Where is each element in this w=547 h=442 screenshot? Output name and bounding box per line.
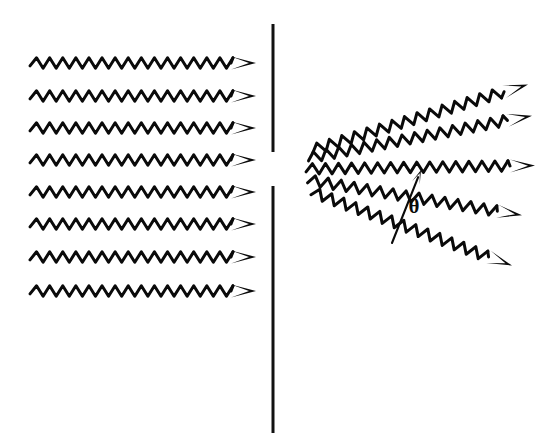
incident-wave-tail-8 xyxy=(231,286,233,291)
diffraction-canvas: θ xyxy=(0,0,547,442)
incident-wave-tail-6 xyxy=(231,219,233,224)
diffracted-ray-center-tail xyxy=(508,161,510,166)
diffraction-diagram: θ xyxy=(0,0,547,442)
incident-wave-tail-4 xyxy=(231,155,233,160)
incident-wave-tail-7 xyxy=(231,252,233,257)
incident-wave-tail-3 xyxy=(231,123,233,128)
theta-label: θ xyxy=(409,194,420,218)
diffracted-ray-down-2-tail xyxy=(488,251,489,257)
incident-wave-tail-2 xyxy=(231,91,233,96)
incident-wave-tail-5 xyxy=(231,187,233,192)
incident-wave-tail-1 xyxy=(231,58,233,63)
